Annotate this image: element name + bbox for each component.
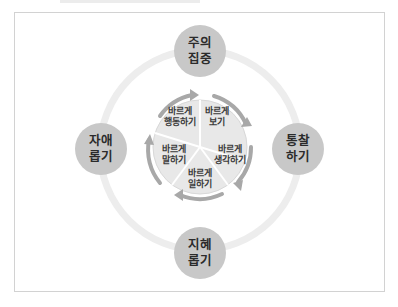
segment-label-line2: 행동하기 — [158, 117, 202, 128]
node-label-line2: 롭기 — [188, 253, 212, 269]
node-insight: 통찰 하기 — [272, 123, 324, 175]
segment-label-line2: 생각하기 — [208, 155, 252, 166]
node-wisdom: 지혜 롭기 — [174, 227, 226, 279]
node-label-line1: 자애 — [89, 133, 113, 149]
segment-label-line2: 일하기 — [178, 179, 222, 190]
segment-label-line1: 바르게 — [178, 168, 222, 179]
segment-right-acting: 바르게 행동하기 — [158, 106, 202, 128]
segment-label-line1: 바르게 — [158, 106, 202, 117]
node-compassion: 자애 롭기 — [75, 123, 127, 175]
node-label-line2: 롭기 — [89, 149, 113, 165]
node-label-line1: 통찰 — [286, 133, 310, 149]
node-label-line1: 지혜 — [188, 237, 212, 253]
segment-label-line2: 말하기 — [152, 155, 196, 166]
segment-right-thinking: 바르게 생각하기 — [208, 144, 252, 166]
segment-label-line1: 바르게 — [152, 144, 196, 155]
segment-label-line1: 바르게 — [208, 144, 252, 155]
segment-right-working: 바르게 일하기 — [178, 168, 222, 190]
node-label-line2: 하기 — [286, 149, 310, 165]
node-label-line2: 집중 — [188, 51, 212, 67]
node-attention-focus: 주의 집중 — [174, 25, 226, 77]
segment-right-speaking: 바르게 말하기 — [152, 144, 196, 166]
node-label-line1: 주의 — [188, 35, 212, 51]
